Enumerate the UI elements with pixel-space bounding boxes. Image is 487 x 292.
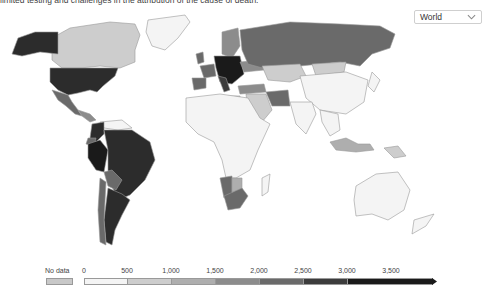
country-japan[interactable]	[368, 72, 380, 92]
legend-tick: 0	[82, 267, 86, 274]
region-scandinavia[interactable]	[222, 28, 240, 58]
legend-tick: 1,500	[206, 267, 224, 274]
legend-bin-2000-2500[interactable]	[259, 278, 303, 285]
country-usa[interactable]	[50, 68, 118, 95]
country-france[interactable]	[200, 64, 216, 78]
country-peru[interactable]	[88, 140, 108, 172]
country-canada[interactable]	[52, 22, 140, 68]
legend-no-data-label: No data	[45, 267, 70, 274]
legend-tick: 3,500	[382, 267, 400, 274]
legend-tick: 1,000	[162, 267, 180, 274]
legend-tick: 3,000	[338, 267, 356, 274]
country-alaska[interactable]	[12, 32, 58, 56]
country-turkey[interactable]	[238, 84, 266, 94]
region-southeast-asia[interactable]	[320, 110, 340, 136]
world-choropleth-map[interactable]	[0, 10, 487, 260]
region-central-europe[interactable]	[214, 56, 244, 84]
country-papua-new-guinea[interactable]	[384, 146, 406, 158]
country-kazakhstan[interactable]	[262, 64, 306, 82]
legend-bin-0-500[interactable]	[84, 278, 127, 285]
legend-tick: 500	[121, 267, 133, 274]
country-new-zealand[interactable]	[412, 214, 434, 234]
country-indonesia[interactable]	[330, 138, 374, 152]
country-greenland[interactable]	[146, 15, 190, 50]
legend-tick: 2,000	[250, 267, 268, 274]
map-legend: No data 0 500 1,000 1,500 2,000 2,500 3,…	[0, 262, 487, 292]
legend-bin-1000-1500[interactable]	[171, 278, 215, 285]
legend-arrow-icon	[432, 278, 437, 285]
country-spain[interactable]	[192, 78, 206, 90]
legend-bin-500-1000[interactable]	[127, 278, 171, 285]
country-russia[interactable]	[240, 22, 395, 70]
country-venezuela-guyana[interactable]	[100, 120, 132, 130]
country-india[interactable]	[290, 102, 316, 134]
legend-bin-1500-2000[interactable]	[215, 278, 259, 285]
legend-bin-2500-3000[interactable]	[303, 278, 347, 285]
country-madagascar[interactable]	[262, 174, 270, 196]
country-australia[interactable]	[354, 172, 410, 220]
legend-tick: 2,500	[294, 267, 312, 274]
legend-no-data-swatch[interactable]	[46, 278, 73, 285]
country-uk[interactable]	[196, 52, 204, 64]
legend-bin-3000-plus[interactable]	[347, 278, 433, 285]
region-central-america[interactable]	[78, 110, 96, 122]
chart-subtitle-note: limited testing and challenges in the at…	[0, 0, 258, 5]
